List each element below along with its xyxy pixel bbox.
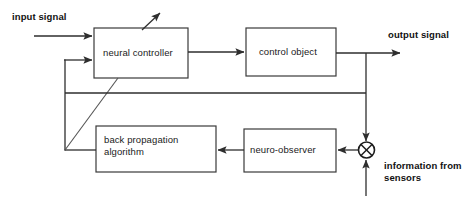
label-input-signal: input signal xyxy=(12,11,67,23)
block-diagram: neural controller control object back pr… xyxy=(0,0,464,203)
label-control-object: control object xyxy=(259,46,317,58)
label-back-propagation-algorithm: back propagation algorithm xyxy=(104,134,179,158)
summing-junction xyxy=(359,142,375,158)
label-neuro-observer: neuro-observer xyxy=(250,144,316,156)
label-neural-controller: neural controller xyxy=(103,47,173,59)
label-information-from-sensors: information from sensors xyxy=(384,160,462,184)
label-output-signal: output signal xyxy=(388,29,449,41)
